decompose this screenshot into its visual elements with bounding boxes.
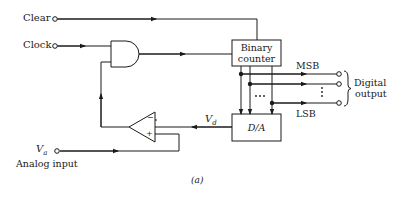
comparator-minus: − — [147, 114, 154, 122]
analog-input-label: Analog input — [16, 159, 78, 169]
clock-label: Clock — [23, 40, 52, 50]
dac-label: D/A — [232, 122, 281, 133]
digital-output-line-1: Digital — [354, 78, 386, 88]
binary-counter-label: Binary counter — [232, 42, 281, 64]
lsb-label: LSB — [296, 109, 316, 119]
msb-label: MSB — [296, 61, 319, 71]
clear-terminal — [53, 17, 58, 22]
adc-diagram: Clear Clock Binary counter D/A MSB LSB D… — [0, 0, 404, 197]
clear-label: Clear — [23, 13, 51, 23]
comparator-plus: + — [146, 130, 153, 138]
clock-terminal — [53, 44, 58, 49]
and-gate — [111, 41, 139, 67]
digital-output-line-2: output — [355, 89, 387, 99]
counter-line-1: Binary — [232, 42, 281, 53]
figure-caption: (a) — [191, 176, 203, 185]
vd-label: Vd — [205, 114, 217, 127]
counter-line-2: counter — [232, 53, 281, 64]
va-label: Va — [36, 144, 47, 157]
analog-terminal — [55, 149, 60, 154]
